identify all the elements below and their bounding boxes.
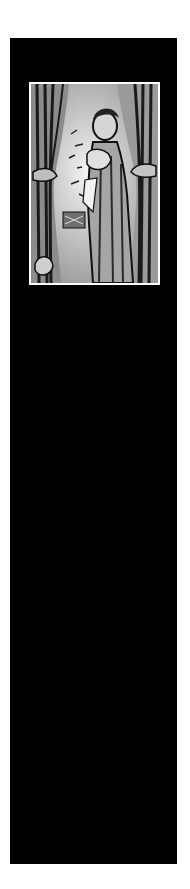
illustration-frame [29,82,160,285]
woodcut-illustration [31,84,158,283]
